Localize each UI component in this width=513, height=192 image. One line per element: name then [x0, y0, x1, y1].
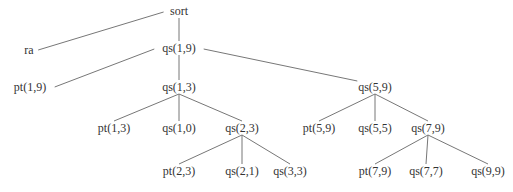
tree-edge: [428, 135, 488, 164]
tree-edge: [114, 94, 179, 121]
tree-edge: [375, 94, 428, 121]
tree-node-qs33: qs(3,3): [273, 165, 307, 177]
tree-node-qs19: qs(1,9): [162, 42, 196, 54]
tree-node-qs10: qs(1,0): [162, 122, 196, 134]
tree-node-qs23: qs(2,3): [225, 122, 259, 134]
tree-edge: [242, 135, 290, 164]
tree-edge: [55, 49, 155, 87]
tree-node-qs59: qs(5,9): [358, 81, 392, 93]
tree-node-qs21: qs(2,1): [225, 165, 259, 177]
tree-node-qs99: qs(9,9): [471, 165, 505, 177]
tree-node-qs77: qs(7,7): [409, 165, 443, 177]
tree-node-pt13: pt(1,3): [98, 122, 130, 134]
tree-node-pt59: pt(5,9): [303, 122, 335, 134]
tree-edge: [204, 49, 358, 81]
call-tree-diagram: sortraqs(1,9)pt(1,9)qs(1,3)qs(5,9)pt(1,3…: [0, 0, 513, 192]
tree-node-pt23: pt(2,3): [163, 165, 195, 177]
tree-edge: [319, 94, 375, 121]
tree-edge: [38, 12, 163, 50]
tree-node-qs79: qs(7,9): [411, 122, 445, 134]
tree-node-qs13: qs(1,3): [162, 81, 196, 93]
tree-node-ra: ra: [24, 44, 33, 56]
tree-node-qs55: qs(5,5): [358, 122, 392, 134]
tree-node-pt19: pt(1,9): [14, 81, 46, 93]
tree-edge: [179, 135, 242, 164]
tree-node-sort: sort: [170, 5, 188, 17]
tree-edge: [375, 135, 428, 164]
tree-edge: [426, 135, 428, 164]
tree-node-pt79: pt(7,9): [359, 165, 391, 177]
tree-edge: [179, 94, 242, 121]
